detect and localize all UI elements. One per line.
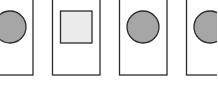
card-3: [120, 0, 168, 75]
circle-shape: [127, 11, 159, 43]
square-shape: [61, 11, 93, 43]
cards-diagram: [0, 0, 217, 95]
card-2: [53, 0, 101, 75]
card-4: [187, 0, 218, 75]
diagram-stage: [0, 0, 217, 95]
circle-shape: [0, 11, 26, 43]
card-1: [0, 0, 33, 75]
